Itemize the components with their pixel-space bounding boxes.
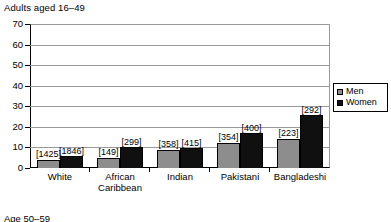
bar-value-label: [1846] [59, 147, 84, 156]
x-axis-label-line: Bangladeshi [270, 171, 330, 182]
bar-women[interactable]: [299] [120, 147, 143, 168]
bar-value-label: [400] [241, 124, 261, 133]
x-axis-label-line: African [90, 171, 150, 182]
x-axis-label-line: Indian [150, 171, 210, 182]
chart-title: Adults aged 16–49 [4, 2, 85, 13]
bar-group: [354][400] [210, 24, 270, 168]
bar-value-label: [223] [278, 129, 298, 138]
bar-men[interactable]: [149] [97, 158, 120, 168]
bar-value-label: [415] [181, 139, 201, 148]
x-axis-label: Pakistani [210, 171, 270, 201]
bar-value-label: [354] [218, 133, 238, 142]
legend-label-men: Men [346, 86, 364, 97]
chart-legend: Men Women [333, 83, 388, 112]
bar-women[interactable]: [415] [180, 148, 203, 168]
x-axis-label: Indian [150, 171, 210, 201]
bar-group: [223][292] [270, 24, 330, 168]
bar-men[interactable]: [354] [217, 143, 240, 168]
bar-groups: [1425][1846][149][299][358][415][354][40… [30, 24, 330, 168]
legend-label-women: Women [346, 97, 377, 108]
x-axis-label: AfricanCaribbean [90, 171, 150, 201]
legend-item-men[interactable]: Men [337, 86, 384, 97]
bar-women[interactable]: [292] [300, 115, 323, 168]
y-axis-tick-label: 50 [12, 60, 23, 70]
legend-item-women[interactable]: Women [337, 97, 384, 108]
y-axis-tick-label: 20 [12, 122, 23, 132]
y-axis-tick-label: 0 [18, 163, 23, 173]
bar-group: [149][299] [90, 24, 150, 168]
y-axis: 010203040506070 [0, 24, 30, 168]
bar-women[interactable]: [400] [240, 133, 263, 168]
bar-value-label: [299] [121, 138, 141, 147]
x-axis-label-line: White [30, 171, 90, 182]
y-axis-tick-label: 60 [12, 40, 23, 50]
bar-group: [358][415] [150, 24, 210, 168]
y-axis-tick-label: 70 [12, 19, 23, 29]
legend-swatch-women-icon [337, 100, 343, 106]
bar-women[interactable]: [1846] [60, 156, 83, 168]
y-axis-tick-mark [25, 168, 30, 169]
x-axis-label: Bangladeshi [270, 171, 330, 201]
bar-value-label: [358] [158, 140, 178, 149]
bar-men[interactable]: [358] [157, 150, 180, 169]
bar-group: [1425][1846] [30, 24, 90, 168]
plot-area: [1425][1846][149][299][358][415][354][40… [30, 24, 330, 168]
x-axis-label-line: Pakistani [210, 171, 270, 182]
legend-swatch-men-icon [337, 89, 343, 95]
y-axis-tick-label: 30 [12, 102, 23, 112]
bar-men[interactable]: [223] [277, 139, 300, 168]
bar-value-label: [292] [301, 106, 321, 115]
bottom-caption: Age 50–59 [4, 213, 50, 222]
y-axis-tick-label: 40 [12, 81, 23, 91]
bar-men[interactable]: [1425] [37, 160, 60, 168]
bar-value-label: [149] [98, 148, 118, 157]
x-axis-labels: WhiteAfricanCaribbeanIndianPakistaniBang… [30, 171, 330, 201]
y-axis-tick-label: 10 [12, 143, 23, 153]
x-axis-label: White [30, 171, 90, 201]
x-axis-label-line: Caribbean [90, 182, 150, 193]
bar-value-label: [1425] [36, 150, 61, 159]
